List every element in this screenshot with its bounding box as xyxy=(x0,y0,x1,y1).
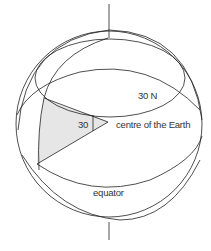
label-equator: equator xyxy=(93,187,124,198)
label-angle: 30 xyxy=(78,119,88,130)
latitude-angle-wedge xyxy=(37,98,108,164)
label-centre: centre of the Earth xyxy=(116,119,190,130)
label-30n: 30 N xyxy=(138,90,157,101)
